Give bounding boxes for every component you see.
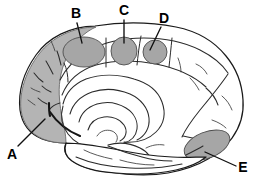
brain-diagram-figure: A B C D E — [0, 0, 253, 192]
brain-diagram-svg: A B C D E — [0, 0, 253, 192]
region-d-circle — [143, 40, 167, 64]
label-c: C — [119, 2, 129, 18]
label-d: D — [159, 10, 169, 26]
sulcus-mark-3 — [49, 103, 50, 116]
label-a: A — [7, 146, 17, 162]
label-b: B — [71, 5, 81, 21]
label-e: E — [238, 159, 247, 175]
region-b-ellipse — [63, 37, 105, 67]
leader-line-e — [205, 152, 236, 166]
